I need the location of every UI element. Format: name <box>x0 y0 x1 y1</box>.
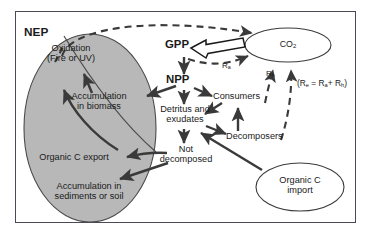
organic-c-import-line2: import <box>287 185 313 195</box>
eq-plus: + R <box>328 78 341 88</box>
organic-c-export-node: Organic C export <box>29 153 119 163</box>
gpp-uptake-block-arrow <box>191 38 245 58</box>
carbon-flux-figure: NEP Oxidation (Fire or UV) Accumulation … <box>0 0 371 247</box>
eq-open: (R <box>297 78 306 88</box>
not-decomposed-node: Not decomposed <box>152 145 220 164</box>
eq-sub-h: h <box>341 82 344 88</box>
accumulation-sediments-node: Accumulation in sediments or soil <box>39 182 139 201</box>
co2-label: CO2 <box>270 40 306 49</box>
not-decomposed-line1: Not <box>179 144 193 154</box>
ra-symbol: R <box>222 61 228 70</box>
accumulation-biomass-line2: in biomass <box>77 101 121 111</box>
organic-c-import-line1: Organic C <box>279 175 320 185</box>
rh-flux-label: Rh <box>266 70 275 78</box>
rh-symbol: R <box>266 69 272 78</box>
co2-subscript: 2 <box>293 43 296 49</box>
eq-sub-e: e <box>306 82 309 88</box>
accumulation-sediments-line2: sediments or soil <box>55 191 124 201</box>
detritus-line2: exudates <box>166 114 203 124</box>
accumulation-biomass-node: Accumulation in biomass <box>51 92 147 111</box>
gpp-node: GPP <box>165 39 189 51</box>
organic-c-export-label: Organic C export <box>39 152 108 162</box>
nep-label: NEP <box>24 26 48 38</box>
eq-equals: = R <box>309 78 325 88</box>
oxidation-line1: Oxidation <box>52 43 91 53</box>
npp-node: NPP <box>166 74 189 86</box>
oxidation-node: Oxidation (Fire or UV) <box>31 44 111 63</box>
flux-npp-to-consumers <box>194 88 212 96</box>
flux-ra-gpp-to-co2 <box>188 56 248 64</box>
oxidation-line2: (Fire or UV) <box>47 53 95 63</box>
eq-close: ) <box>344 78 347 88</box>
accumulation-sediments-line1: Accumulation in <box>57 181 122 191</box>
flux-detritus-to-decomposers <box>206 126 226 134</box>
respiration-equation: (Re = Ra+ Rh) <box>297 79 347 88</box>
organic-c-import-label: Organic C import <box>269 176 331 195</box>
accumulation-biomass-line1: Accumulation <box>71 91 126 101</box>
rh-subscript: h <box>272 72 275 78</box>
ra-subscript: a <box>228 64 231 70</box>
detritus-node: Detritus and exudates <box>150 105 220 124</box>
co2-text: CO <box>280 39 293 49</box>
not-decomposed-line2: decomposed <box>160 154 213 164</box>
detritus-line1: Detritus and <box>160 104 210 114</box>
decomposers-node: Decomposers <box>226 132 283 142</box>
consumers-node: Consumers <box>213 92 260 102</box>
flux-rh-decomposers-to-co2 <box>281 70 291 140</box>
ra-flux-label: Ra <box>222 62 231 70</box>
eq-sub-a: a <box>325 82 328 88</box>
